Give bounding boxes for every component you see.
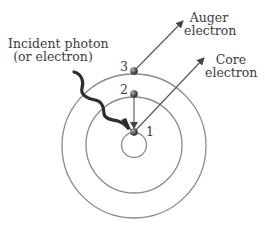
core-label-line2: electron (205, 66, 257, 79)
electron-level-2 (130, 90, 138, 98)
auger-electron-arrow (134, 21, 183, 71)
core-electron-arrow (134, 58, 204, 132)
electron-level-3 (130, 67, 138, 75)
level-2-label: 2 (120, 82, 128, 97)
level-1-label: 1 (146, 124, 154, 139)
electron-level-1 (130, 128, 138, 136)
inner-shell (122, 133, 147, 158)
auger-electron-label: Auger electron (184, 11, 234, 37)
auger-label-line2: electron (184, 24, 234, 37)
level-3-label: 3 (120, 59, 128, 74)
incident-photon-label: Incident photon (or electron) (8, 37, 98, 63)
core-electron-label: Core electron (205, 53, 257, 79)
incident-photon-wave (74, 72, 128, 128)
incident-label-line2: (or electron) (8, 50, 98, 63)
